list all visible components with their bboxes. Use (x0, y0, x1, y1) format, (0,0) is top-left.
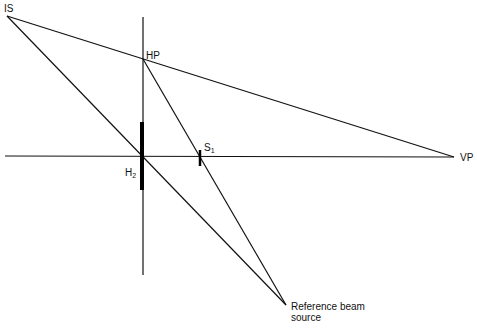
ray-is-vp (7, 16, 454, 157)
label-s1-sub: 1 (211, 147, 215, 154)
label-reference-beam-source: Reference beam source (291, 301, 365, 323)
label-s1-main: S (204, 142, 211, 153)
ray-hp-reference (143, 59, 286, 305)
label-hp: HP (146, 50, 160, 61)
label-is: IS (4, 3, 13, 14)
horizontal-axis (5, 156, 454, 157)
optical-diagram (0, 0, 477, 328)
label-vp: VP (460, 152, 473, 163)
label-s1: S1 (204, 142, 215, 156)
label-h2: H2 (125, 167, 136, 181)
label-reference-line1: Reference beam (291, 301, 365, 312)
label-h2-sub: 2 (132, 172, 136, 179)
label-reference-line2: source (291, 312, 365, 323)
